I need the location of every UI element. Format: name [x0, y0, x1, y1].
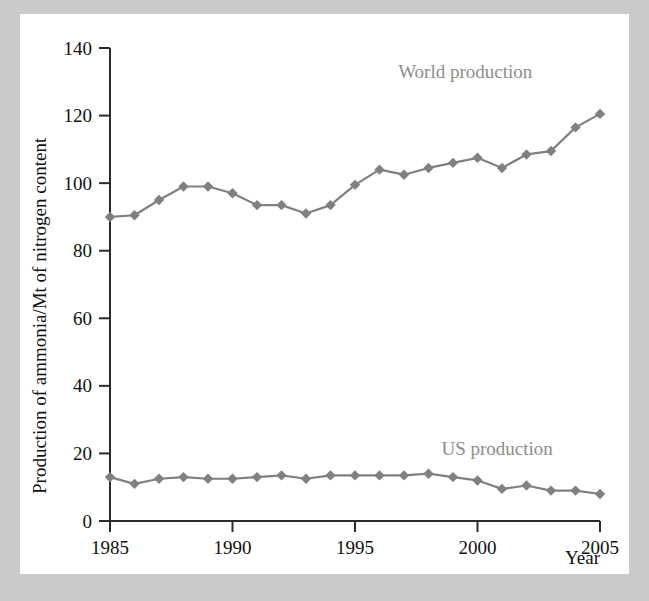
- y-axis-ticks: [99, 48, 110, 521]
- x-axis-ticks: [110, 521, 600, 532]
- data-point-marker: [154, 474, 164, 484]
- data-point-marker: [129, 210, 139, 220]
- data-point-marker: [448, 158, 458, 168]
- data-point-marker: [399, 169, 409, 179]
- data-point-marker: [227, 474, 237, 484]
- x-axis-tick-labels: 19851990199520002005: [91, 537, 619, 558]
- data-point-marker: [595, 109, 605, 119]
- y-tick-label: 100: [64, 173, 93, 194]
- series-line-world-production: [110, 114, 600, 217]
- x-tick-label: 2000: [459, 537, 497, 558]
- data-point-marker: [546, 485, 556, 495]
- data-point-marker: [374, 470, 384, 480]
- data-point-marker: [227, 188, 237, 198]
- x-axis-title: Year: [565, 547, 601, 568]
- data-point-marker: [570, 485, 580, 495]
- series-annotation-label: World production: [398, 61, 533, 82]
- data-point-marker: [521, 480, 531, 490]
- y-tick-label: 0: [83, 511, 93, 532]
- data-point-marker: [472, 475, 482, 485]
- data-point-marker: [595, 489, 605, 499]
- data-point-marker: [325, 470, 335, 480]
- data-point-marker: [203, 474, 213, 484]
- data-point-marker: [105, 472, 115, 482]
- data-point-marker: [448, 472, 458, 482]
- data-point-marker: [301, 208, 311, 218]
- data-point-marker: [178, 472, 188, 482]
- x-tick-label: 1990: [214, 537, 252, 558]
- data-point-marker: [399, 470, 409, 480]
- data-point-marker: [521, 149, 531, 159]
- y-tick-label: 120: [64, 105, 93, 126]
- data-point-marker: [252, 200, 262, 210]
- data-point-marker: [129, 479, 139, 489]
- ammonia-production-line-chart: Production of ammonia/Mt of nitrogen con…: [20, 14, 629, 574]
- chart-figure: Production of ammonia/Mt of nitrogen con…: [20, 14, 629, 574]
- series-annotation-label: US production: [441, 438, 553, 459]
- data-point-marker: [301, 474, 311, 484]
- data-point-marker: [374, 164, 384, 174]
- data-point-marker: [276, 200, 286, 210]
- data-point-marker: [276, 470, 286, 480]
- y-tick-label: 80: [73, 240, 92, 261]
- series-annotations-group: World productionUS production: [398, 61, 553, 459]
- y-axis-tick-labels: 020406080100120140: [64, 38, 93, 532]
- data-point-marker: [423, 163, 433, 173]
- x-tick-label: 1985: [91, 537, 129, 558]
- data-point-marker: [350, 470, 360, 480]
- x-tick-label: 1995: [336, 537, 374, 558]
- data-point-marker: [252, 472, 262, 482]
- data-point-marker: [203, 181, 213, 191]
- data-point-marker: [497, 484, 507, 494]
- data-point-marker: [472, 153, 482, 163]
- y-tick-label: 140: [64, 38, 93, 59]
- y-tick-label: 60: [73, 308, 92, 329]
- y-tick-label: 40: [73, 375, 92, 396]
- y-axis-title: Production of ammonia/Mt of nitrogen con…: [29, 137, 50, 494]
- data-point-marker: [423, 469, 433, 479]
- series-lines-group: [110, 114, 600, 494]
- data-point-marker: [178, 181, 188, 191]
- y-tick-label: 20: [73, 443, 92, 464]
- data-point-marker: [154, 195, 164, 205]
- data-point-marker: [105, 212, 115, 222]
- data-point-marker: [497, 163, 507, 173]
